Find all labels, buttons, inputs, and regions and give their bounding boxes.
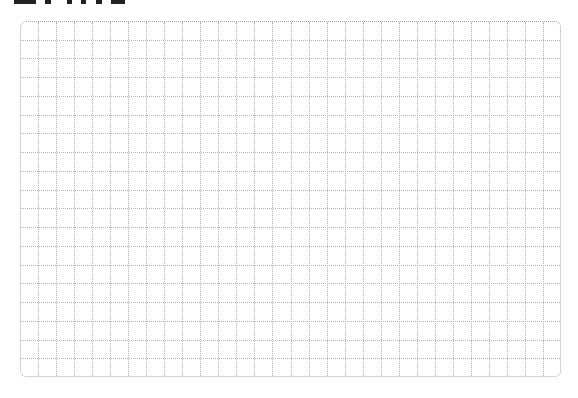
grid-column-line: [291, 22, 292, 376]
dotted-grid: [20, 21, 561, 377]
title-glyph-fragment: [14, 0, 36, 4]
grid-row-line: [21, 133, 560, 134]
grid-column-line: [254, 22, 255, 376]
grid-column-line: [182, 22, 183, 376]
grid-column-line: [200, 22, 201, 376]
grid-column-line: [38, 22, 39, 376]
grid-column-line: [435, 22, 436, 376]
grid-column-line: [146, 22, 147, 376]
grid-column-line: [489, 22, 490, 376]
grid-column-line: [74, 22, 75, 376]
grid-row-line: [21, 171, 560, 172]
grid-column-line: [56, 22, 57, 376]
grid-row-line: [21, 152, 560, 153]
grid-row-line: [21, 302, 560, 303]
title-glyph-fragment: [111, 0, 125, 4]
grid-row-line: [21, 115, 560, 116]
grid-column-line: [92, 22, 93, 376]
grid-column-line: [236, 22, 237, 376]
grid-column-line: [453, 22, 454, 376]
grid-row-line: [21, 190, 560, 191]
grid-column-line: [525, 22, 526, 376]
grid-row-line: [21, 227, 560, 228]
title-glyph-fragment: [81, 0, 86, 4]
grid-column-line: [381, 22, 382, 376]
grid-column-line: [507, 22, 508, 376]
grid-column-line: [164, 22, 165, 376]
grid-column-line: [272, 22, 273, 376]
grid-row-line: [21, 96, 560, 97]
title-glyph-fragment: [96, 0, 102, 4]
grid-column-line: [128, 22, 129, 376]
grid-column-line: [399, 22, 400, 376]
grid-column-line: [309, 22, 310, 376]
grid-column-line: [417, 22, 418, 376]
title-glyph-fragment: [45, 0, 51, 4]
grid-column-line: [110, 22, 111, 376]
grid-column-line: [363, 22, 364, 376]
title-glyph-fragment: [67, 0, 72, 4]
grid-row-line: [21, 283, 560, 284]
grid-row-line: [21, 40, 560, 41]
page: [0, 0, 578, 398]
grid-row-line: [21, 321, 560, 322]
grid-column-line: [327, 22, 328, 376]
grid-row-line: [21, 265, 560, 266]
grid-row-line: [21, 246, 560, 247]
clipped-footer: [82, 394, 140, 398]
grid-column-line: [471, 22, 472, 376]
grid-column-line: [543, 22, 544, 376]
grid-column-line: [345, 22, 346, 376]
clipped-title: [14, 0, 125, 5]
grid-column-line: [218, 22, 219, 376]
grid-row-line: [21, 58, 560, 59]
grid-row-line: [21, 340, 560, 341]
grid-row-line: [21, 208, 560, 209]
grid-row-line: [21, 358, 560, 359]
grid-row-line: [21, 77, 560, 78]
